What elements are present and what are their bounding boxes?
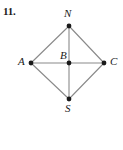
vertex-point-N bbox=[67, 24, 72, 29]
vertex-label-B: B bbox=[60, 50, 67, 61]
geometry-diagram bbox=[0, 0, 123, 150]
vertex-label-N: N bbox=[64, 8, 71, 19]
segment-S-A bbox=[31, 63, 69, 99]
figure-container: 11. N A B C S bbox=[0, 0, 123, 150]
segment-C-S bbox=[69, 63, 104, 99]
segment-N-C bbox=[69, 26, 104, 63]
vertex-label-A: A bbox=[18, 56, 25, 67]
vertex-label-C: C bbox=[110, 56, 117, 67]
vertex-point-A bbox=[29, 61, 34, 66]
vertex-point-C bbox=[102, 61, 107, 66]
vertex-point-S bbox=[67, 97, 72, 102]
vertex-point-B bbox=[67, 61, 72, 66]
vertex-label-S: S bbox=[65, 103, 71, 114]
